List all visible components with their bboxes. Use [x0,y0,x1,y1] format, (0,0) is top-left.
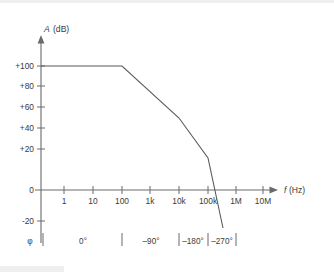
y-tick-label: +20 [20,144,35,154]
y-tick-label: 0 [29,185,34,195]
y-tick-label: +60 [20,102,35,112]
x-tick-label: 10k [172,196,186,206]
gain-response-curve [41,66,223,228]
bode-plot-figure: A (dB) +100 +80 +60 +40 +20 0 -20 f (Hz)… [0,0,334,272]
x-tick-group: 1 10 100 1k 10k 100k 1M 10M [62,186,272,206]
x-tick-label: 1k [146,196,156,206]
y-tick-label: +80 [20,81,35,91]
phase-segment-label: 0° [79,237,87,246]
x-axis: f (Hz) 1 10 100 1k 10k 100k 1M 10M [35,185,305,206]
x-tick-label: 100k [199,196,218,206]
y-tick-label: -20 [22,216,34,226]
x-tick-label: 100 [115,196,129,206]
y-tick-label: +100 [15,61,34,71]
y-axis-title-symbol: A [43,24,50,34]
page-edge-smudge-top [0,0,334,3]
phase-axis-row: φ 0° –90° –180° –270° [27,233,236,246]
phase-segment-label: –270° [211,237,233,246]
x-tick-label: 10M [255,196,271,206]
page-edge-smudge-bottom [0,266,64,272]
y-tick-label: +40 [20,123,35,133]
y-axis-title-unit: (dB) [53,24,69,34]
phase-segment-label: –90° [143,237,160,246]
phase-segment-label: –180° [182,237,204,246]
x-axis-arrowhead-icon [270,187,279,194]
phase-symbol: φ [27,236,33,246]
x-tick-label: 1M [230,196,242,206]
x-axis-title-symbol: f [284,185,288,195]
y-axis-arrowhead-icon [38,35,45,44]
x-tick-label: 10 [88,196,98,206]
x-tick-label: 1 [62,196,67,206]
y-axis: A (dB) +100 +80 +60 +40 +20 0 -20 [15,24,69,243]
x-axis-title-unit: (Hz) [289,185,305,195]
